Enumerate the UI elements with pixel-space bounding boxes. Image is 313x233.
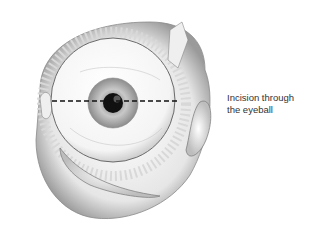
incision-label-line2: the eyeball (227, 104, 294, 116)
pupil (103, 93, 123, 113)
incision-label: Incision through the eyeball (227, 92, 294, 116)
incision-label-line1: Incision through (227, 92, 294, 104)
eyeball-illustration (0, 0, 313, 233)
